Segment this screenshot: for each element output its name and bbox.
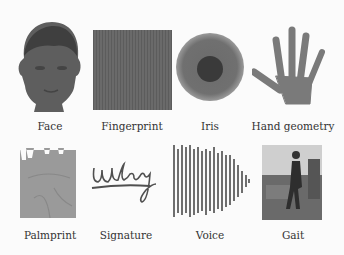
iris-image	[175, 32, 245, 102]
hand-image	[252, 22, 332, 106]
face-image	[14, 18, 86, 114]
caption-face: Face	[38, 120, 63, 132]
palmprint-image	[20, 148, 76, 218]
signature-image	[90, 160, 162, 208]
voice-waveform-image	[172, 141, 252, 219]
caption-iris: Iris	[201, 120, 219, 132]
caption-signature: Signature	[100, 229, 153, 241]
gait-image	[262, 145, 322, 220]
fingerprint-image	[93, 30, 172, 110]
caption-voice: Voice	[196, 229, 224, 241]
caption-palmprint: Palmprint	[24, 229, 76, 241]
caption-fingerprint: Fingerprint	[101, 120, 162, 132]
caption-hand-geometry: Hand geometry	[252, 120, 335, 132]
caption-gait: Gait	[282, 229, 304, 241]
